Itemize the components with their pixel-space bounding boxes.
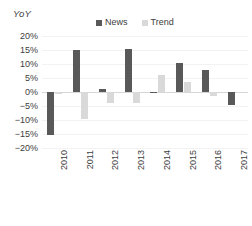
bar-group-2012 — [94, 36, 120, 148]
y-axis-tick-label: −5% — [0, 101, 38, 111]
legend-label: News — [105, 18, 128, 27]
legend-item-trend[interactable]: Trend — [142, 18, 174, 27]
x-axis-tick-label-2012: 2012 — [110, 150, 120, 170]
chart-legend: NewsTrend — [96, 18, 174, 27]
bar-group-2014 — [145, 36, 171, 148]
bar-news-2016 — [202, 70, 209, 92]
y-axis-tick-label: 20% — [0, 31, 38, 41]
legend-swatch-news-icon — [96, 20, 102, 26]
bar-news-2011 — [73, 50, 80, 92]
bar-trend-2014 — [158, 75, 165, 92]
y-axis-tick-label: 15% — [0, 45, 38, 55]
bar-group-2011 — [68, 36, 94, 148]
y-axis-title: YoY — [13, 8, 31, 19]
bar-news-2015 — [176, 63, 183, 92]
x-axis-tick-label-2010: 2010 — [59, 150, 69, 170]
bar-news-2012 — [99, 89, 106, 92]
legend-swatch-trend-icon — [142, 20, 148, 26]
bar-group-2015 — [171, 36, 197, 148]
bar-trend-2016 — [210, 92, 217, 96]
y-axis-tick-label: −15% — [0, 129, 38, 139]
x-axis-tick-label-2016: 2016 — [213, 150, 223, 170]
bar-trend-2015 — [184, 82, 191, 92]
x-axis-tick-label-2015: 2015 — [188, 150, 198, 170]
bar-group-2010 — [42, 36, 68, 148]
bar-news-2010 — [47, 92, 54, 135]
y-axis-tick-label: −10% — [0, 115, 38, 125]
gridline — [42, 148, 248, 149]
chart-container: YoY NewsTrend 20%15%10%5%0%−5%−10%−15%−2… — [0, 0, 252, 226]
x-axis-ticks: 20102011201220132014201520162017 — [42, 150, 248, 210]
plot-area: 20%15%10%5%0%−5%−10%−15%−20% — [42, 36, 248, 148]
bar-trend-2010 — [55, 92, 62, 94]
bar-series-group — [42, 36, 248, 148]
x-axis-tick-label-2013: 2013 — [136, 150, 146, 170]
bar-news-2014 — [150, 92, 157, 93]
bar-trend-2013 — [133, 92, 140, 103]
bar-news-2017 — [228, 92, 235, 105]
legend-label: Trend — [151, 18, 174, 27]
bar-group-2016 — [197, 36, 223, 148]
y-axis-tick-label: −20% — [0, 143, 38, 153]
bar-news-2013 — [125, 49, 132, 92]
legend-item-news[interactable]: News — [96, 18, 128, 27]
x-axis-tick-label-2011: 2011 — [85, 150, 95, 169]
bar-trend-2017 — [236, 92, 243, 93]
y-axis-tick-label: 0% — [0, 87, 38, 97]
bar-group-2017 — [222, 36, 248, 148]
y-axis-tick-label: 10% — [0, 59, 38, 69]
bar-trend-2012 — [107, 92, 114, 103]
bar-trend-2011 — [81, 92, 88, 119]
x-axis-tick-label-2014: 2014 — [162, 150, 172, 170]
bar-group-2013 — [119, 36, 145, 148]
y-axis-tick-label: 5% — [0, 73, 38, 83]
x-axis-tick-label-2017: 2017 — [239, 150, 249, 170]
